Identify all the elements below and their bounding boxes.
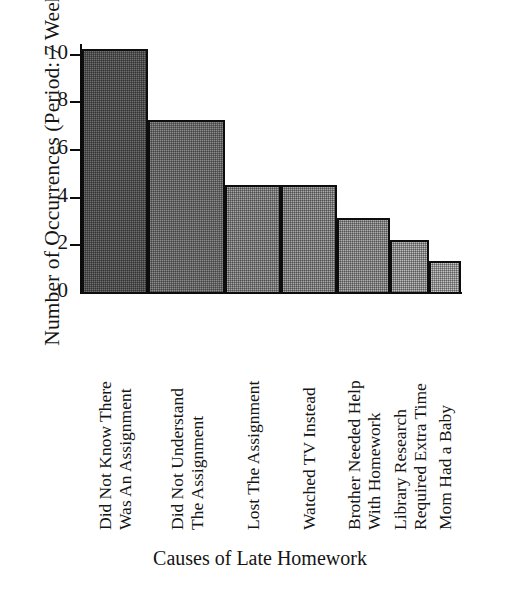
bar (390, 240, 429, 294)
y-tick-mark (70, 54, 82, 56)
category-label-line: Watched TV Instead (299, 387, 319, 530)
category-label: Mom Had a Baby (429, 294, 461, 530)
category-label-line: Did Not Know There (95, 381, 115, 530)
y-tick-label: 2 (24, 232, 68, 253)
category-label-line: Required Extra Time (410, 383, 430, 530)
bar (281, 185, 337, 294)
y-tick-label: 0 (24, 280, 68, 301)
bars-group (82, 0, 461, 294)
y-tick-label: 6 (24, 137, 68, 158)
category-label: Watched TV Instead (281, 294, 337, 530)
y-tick-label: 10 (24, 42, 68, 63)
category-label-line: Brother Needed Help (343, 380, 363, 530)
bar (429, 261, 461, 294)
category-label-line: Mom Had a Baby (435, 405, 455, 530)
category-label: Did Not Know ThereWas An Assignment (82, 294, 148, 530)
y-tick-mark (70, 101, 82, 103)
y-tick-label: 8 (24, 89, 68, 110)
category-label: Did Not UnderstandThe Assignment (148, 294, 225, 530)
x-axis-title: Causes of Late Homework (0, 548, 520, 568)
bar (337, 218, 390, 294)
y-tick-mark (70, 244, 82, 246)
category-label-line: Library Research (389, 383, 409, 530)
category-label: Library ResearchRequired Extra Time (390, 294, 429, 530)
bar (82, 49, 148, 294)
category-label-line: The Assignment (187, 388, 207, 530)
y-tick-label: 4 (24, 185, 68, 206)
category-label-line: Did Not Understand (166, 388, 186, 530)
category-label: Brother Needed HelpWith Homework (337, 294, 390, 530)
category-label-line: With Homework (364, 380, 384, 530)
x-axis-category-labels: Did Not Know ThereWas An AssignmentDid N… (82, 294, 461, 534)
category-label: Lost The Assignment (225, 294, 281, 530)
y-tick-mark (70, 197, 82, 199)
bar (225, 185, 281, 294)
y-tick-mark (70, 149, 82, 151)
category-label-line: Lost The Assignment (243, 381, 263, 530)
bar-chart: Number of Occurrences (Period: 7 Weeks) … (0, 0, 520, 602)
category-label-line: Was An Assignment (115, 381, 135, 530)
bar (148, 120, 225, 294)
